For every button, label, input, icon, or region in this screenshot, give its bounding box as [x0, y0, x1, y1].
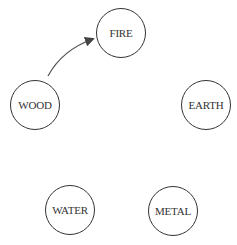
node-fire[interactable]: FIRE	[96, 8, 146, 58]
node-water-label: WATER	[52, 204, 88, 216]
node-earth[interactable]: EARTH	[181, 80, 231, 130]
node-metal[interactable]: METAL	[148, 186, 198, 236]
node-water[interactable]: WATER	[45, 185, 95, 235]
node-fire-label: FIRE	[109, 27, 132, 39]
node-metal-label: METAL	[155, 205, 191, 217]
node-earth-label: EARTH	[188, 99, 223, 111]
node-wood[interactable]: WOOD	[10, 80, 60, 130]
edge-wood-to-fire	[48, 39, 93, 76]
node-wood-label: WOOD	[18, 99, 51, 111]
